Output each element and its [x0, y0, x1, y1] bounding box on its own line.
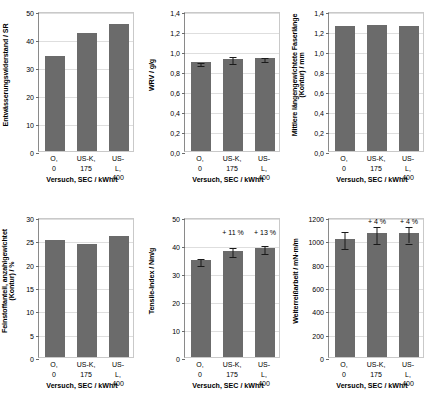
y-axis-tick — [182, 331, 185, 332]
x-axis-tick-labels: O, 0US-K, 175US-L, 400 — [38, 360, 134, 382]
y-axis-tick — [182, 13, 185, 14]
bar — [255, 58, 274, 152]
y-axis-tick — [326, 93, 329, 94]
plot-area-wrv: 0,00,20,40,60,81,01,21,4 — [184, 12, 280, 152]
y-axis-title-wrv: WRV / g/g — [146, 0, 160, 150]
y-axis-tick — [182, 133, 185, 134]
y-axis-tick-label: 0,2 — [314, 130, 324, 137]
y-axis-tick-label: 0 — [176, 356, 180, 363]
y-axis-tick — [182, 303, 185, 304]
y-axis-tick-label: 40 — [172, 244, 180, 251]
bar — [335, 26, 354, 151]
y-axis-tick-label: 0,0 — [170, 150, 180, 157]
x-axis-tick-label: O, 0 — [340, 360, 347, 379]
error-bar-cap — [198, 66, 205, 67]
bar — [399, 233, 418, 357]
error-bar-cap — [342, 232, 349, 233]
bar-annotation: + 4 % — [400, 218, 418, 225]
y-axis-tick-label: 1,4 — [170, 10, 180, 17]
error-bar-cap — [230, 248, 237, 249]
y-axis-tick — [182, 33, 185, 34]
bar — [109, 236, 128, 357]
y-axis-tick-label: 50 — [26, 10, 34, 17]
x-axis-tick-labels: O, 0US-K, 175US-L, 400 — [184, 360, 280, 382]
x-axis-title-fibre-length: Versuch, SEC / kWh/t — [310, 176, 434, 184]
y-axis-tick — [326, 13, 329, 14]
y-axis-tick-label: 5 — [30, 332, 34, 339]
error-bar-cap — [262, 62, 269, 63]
chart-panel-fines-content: Feinstoffanteil, anzahlgewichtet (Kontur… — [0, 206, 144, 412]
error-bar — [201, 259, 202, 266]
error-bar — [345, 232, 346, 250]
bar — [191, 260, 210, 357]
y-axis-tick-label: 200 — [312, 332, 324, 339]
y-axis-title-tensile-index: Tensile-Index / Nm/g — [146, 206, 160, 356]
y-axis-title-tear-work: Weiterreißarbeit / mN·m/m — [290, 206, 304, 356]
x-axis-tick-labels: O, 0US-K, 175US-L, 400 — [328, 360, 424, 382]
y-axis-tick-label: 0 — [30, 150, 34, 157]
y-axis-tick — [36, 219, 39, 220]
x-axis-tick-label: US-K, 175 — [367, 360, 386, 379]
bar-annotation: + 4 % — [368, 218, 386, 225]
error-bar-cap — [406, 244, 413, 245]
y-axis-tick — [326, 219, 329, 220]
chart-panel-fibre-length: Mittlere längengewichtete Faserlänge (Ko… — [290, 0, 434, 206]
y-axis-tick — [36, 312, 39, 313]
error-bar-cap — [374, 244, 381, 245]
plot-area-dewatering-resistance: 01020304050 — [38, 12, 134, 152]
y-axis-tick-label: 20 — [26, 262, 34, 269]
y-axis-tick-label: 0,4 — [314, 110, 324, 117]
bar — [77, 33, 96, 151]
y-axis-tick — [36, 41, 39, 42]
y-axis-tick — [326, 133, 329, 134]
error-bar-cap — [230, 64, 237, 65]
plot-area-tensile-index: 01020304050+ 11 %+ 13 % — [184, 218, 280, 358]
x-axis-tick-label: US-K, 175 — [223, 154, 242, 173]
error-bar-cap — [262, 246, 269, 247]
y-axis-tick-label: 1,2 — [314, 30, 324, 37]
x-axis-tick-label: US-K, 175 — [367, 154, 386, 173]
bar-annotation: + 13 % — [254, 229, 276, 236]
bar-slot — [45, 13, 64, 151]
y-axis-tick — [326, 242, 329, 243]
x-axis-title-dewatering-resistance: Versuch, SEC / kWh/t — [20, 176, 144, 184]
bar — [255, 248, 274, 357]
error-bar-cap — [342, 249, 349, 250]
y-axis-tick-label: 1,2 — [170, 30, 180, 37]
chart-panel-tensile-index: Tensile-Index / Nm/g01020304050+ 11 %+ 1… — [146, 206, 290, 412]
y-axis-tick-label: 10 — [26, 122, 34, 129]
y-axis-tick-label: 400 — [312, 309, 324, 316]
plot-area-fibre-length: 0,00,20,40,60,81,01,21,4 — [328, 12, 424, 152]
bar — [109, 24, 128, 151]
y-axis-tick-label: 40 — [26, 38, 34, 45]
y-axis-tick — [36, 336, 39, 337]
chart-panel-dewatering-resistance: Entwässerungswiderstand / SR01020304050O… — [0, 0, 144, 206]
error-bar — [233, 248, 234, 257]
bar — [399, 26, 418, 151]
y-axis-tick-label: 15 — [26, 286, 34, 293]
y-axis-tick — [36, 97, 39, 98]
error-bar-cap — [230, 57, 237, 58]
bar — [45, 56, 64, 151]
y-axis-tick-label: 20 — [172, 300, 180, 307]
y-axis-tick — [182, 219, 185, 220]
y-axis-tick-label: 600 — [312, 286, 324, 293]
bar-slot — [255, 219, 274, 357]
y-axis-tick — [326, 312, 329, 313]
y-axis-title-fibre-length: Mittlere längengewichtete Faserlänge (Ko… — [290, 0, 308, 150]
y-axis-tick-label: 10 — [172, 328, 180, 335]
bar-slot — [255, 13, 274, 151]
x-axis-title-tear-work: Versuch, SEC / kWh/t — [310, 382, 434, 390]
x-axis-tick-labels: O, 0US-K, 175US-L, 400 — [328, 154, 424, 176]
error-bar-cap — [262, 254, 269, 255]
x-axis-tick-label: O, 0 — [50, 360, 57, 379]
y-axis-tick-label: 0,6 — [170, 90, 180, 97]
y-axis-tick-label: 1,0 — [170, 50, 180, 57]
y-axis-tick-label: 25 — [26, 239, 34, 246]
error-bar — [233, 57, 234, 64]
bar-slot — [335, 13, 354, 151]
y-axis-tick-label: 0 — [30, 356, 34, 363]
x-axis-tick-label: US-K, 175 — [223, 360, 242, 379]
y-axis-tick-label: 30 — [172, 272, 180, 279]
x-axis-tick-labels: O, 0US-K, 175US-L, 400 — [184, 154, 280, 176]
